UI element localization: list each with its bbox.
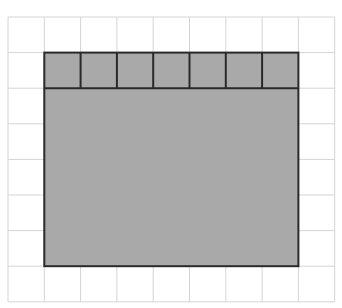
shaded-rectangle: [44, 53, 298, 267]
grid-diagram: [0, 0, 342, 308]
